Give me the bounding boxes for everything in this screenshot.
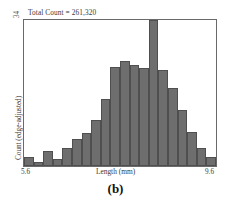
- figure-caption: (b): [0, 181, 231, 197]
- histogram-bar: [158, 70, 168, 166]
- histogram-bar: [197, 148, 207, 166]
- x-axis-title: Length (mm): [0, 167, 231, 176]
- histogram-bar: [139, 68, 149, 166]
- figure-panel-b: Total Count = 261,320 34 Count (edge-adj…: [0, 0, 231, 208]
- plot-area: [23, 19, 217, 167]
- histogram-bar: [34, 162, 44, 166]
- histogram-bar: [178, 110, 188, 166]
- histogram-bar: [149, 20, 159, 166]
- histogram-bar: [120, 61, 130, 166]
- histogram-bar: [53, 159, 63, 166]
- histogram-bar: [130, 65, 140, 166]
- histogram-bar: [82, 133, 92, 166]
- histogram-bar: [72, 139, 82, 166]
- y-axis-tick-top: 34: [13, 11, 21, 18]
- total-count-annotation: Total Count = 261,320: [28, 8, 96, 17]
- histogram-bar: [91, 120, 101, 166]
- histogram-bar: [110, 67, 120, 166]
- histogram-bar: [24, 157, 34, 166]
- histogram-bars: [24, 20, 216, 166]
- histogram-bar: [206, 157, 216, 166]
- y-axis-title: Count (edge-adjusted): [15, 96, 23, 160]
- histogram-bar: [43, 151, 53, 166]
- histogram-bar: [187, 132, 197, 166]
- histogram-bar: [62, 148, 72, 166]
- histogram-bar: [101, 99, 111, 166]
- histogram-bar: [168, 88, 178, 166]
